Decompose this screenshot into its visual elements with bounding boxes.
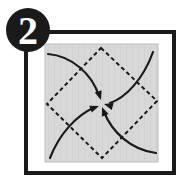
paper-square xyxy=(45,44,158,162)
step-number-label: 2 xyxy=(18,8,38,53)
paper-square-fill xyxy=(45,44,158,162)
origami-diagram-canvas: 2 xyxy=(0,0,180,181)
origami-step-figure: 2 xyxy=(0,0,180,181)
